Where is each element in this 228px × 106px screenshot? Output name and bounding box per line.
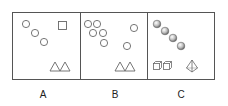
cube-shape xyxy=(154,62,162,70)
panel-label-c: C xyxy=(171,89,191,100)
triangle-shape xyxy=(125,62,135,71)
circle-shape xyxy=(99,29,106,36)
panel-c xyxy=(153,20,197,72)
circle-shape xyxy=(130,24,137,31)
sphere-shape xyxy=(161,27,169,35)
circle-shape xyxy=(100,39,107,46)
circle-shape xyxy=(93,20,100,27)
circle-shape xyxy=(84,20,91,27)
triangle-shape xyxy=(50,62,60,71)
sphere-shape xyxy=(169,34,177,42)
square-shape xyxy=(59,22,67,30)
triangle-shape xyxy=(115,62,125,71)
panel-label-a: A xyxy=(33,89,53,100)
pyramid-shape xyxy=(187,60,198,72)
circle-shape xyxy=(89,29,96,36)
circle-shape xyxy=(40,38,47,45)
circle-shape xyxy=(31,29,38,36)
panel-label-b: B xyxy=(105,89,125,100)
panel-b xyxy=(84,20,137,71)
cube-shape xyxy=(164,62,172,70)
panel-a xyxy=(22,20,70,71)
circle-shape xyxy=(123,42,130,49)
triangle-shape xyxy=(60,62,70,71)
sphere-shape xyxy=(153,20,161,28)
sphere-shape xyxy=(177,42,185,50)
circle-shape xyxy=(22,20,29,27)
